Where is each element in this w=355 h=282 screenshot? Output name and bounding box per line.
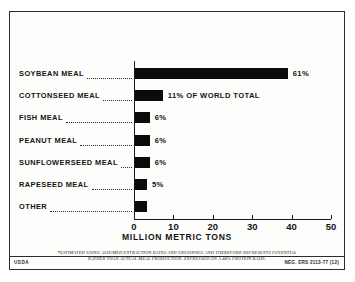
chart-figure: SOYBEAN MEAL61%COTTONSEED MEAL11% OF WOR… — [9, 11, 345, 270]
x-axis-tick — [331, 215, 332, 219]
bar-value-label: 5% — [152, 174, 164, 196]
bar-row: OTHER — [10, 196, 344, 218]
x-axis-tick-label: 30 — [240, 221, 264, 232]
bar-row: SOYBEAN MEAL61% — [10, 63, 344, 85]
bar-row: PEANUT MEAL6% — [10, 130, 344, 152]
x-axis-title: MILLION METRIC TONS — [10, 232, 344, 242]
bar — [134, 112, 150, 123]
credit-bar: USDA NEG. ERS 2113-77 (12) — [10, 256, 344, 269]
bar-value-label: 11% OF WORLD TOTAL — [168, 85, 260, 107]
x-axis-tick-label: 0 — [122, 221, 146, 232]
x-axis-tick — [252, 215, 253, 219]
bar-category-label: RAPESEED MEAL — [19, 174, 89, 196]
bar-value-label: 6% — [155, 152, 167, 174]
bar-row: FISH MEAL6% — [10, 107, 344, 129]
bar-category-label: SOYBEAN MEAL — [19, 63, 84, 85]
dot-leader — [80, 144, 132, 146]
axis-zero-line — [134, 61, 135, 219]
bar — [134, 90, 163, 101]
dot-leader — [50, 210, 132, 212]
negative-id-label: NEG. ERS 2113-77 (12) — [284, 260, 339, 265]
x-axis-tick — [213, 215, 214, 219]
x-axis-tick — [134, 215, 135, 219]
x-axis-tick — [173, 215, 174, 219]
bar-row: RAPESEED MEAL5% — [10, 174, 344, 196]
bar — [134, 201, 147, 212]
x-axis-tick-label: 40 — [280, 221, 304, 232]
footnote-text-1: ESTIMATED USING ASSUMED EXTRACTION RATES… — [60, 250, 297, 255]
dot-leader — [66, 121, 132, 123]
dot-leader — [87, 77, 132, 79]
bar-value-label: 61% — [293, 63, 309, 85]
bar-category-label: SUNFLOWERSEED MEAL — [19, 152, 118, 174]
dot-leader — [103, 99, 132, 101]
bar-category-label: COTTONSEED MEAL — [19, 85, 100, 107]
usda-label: USDA — [14, 260, 29, 265]
dot-leader — [121, 166, 132, 168]
x-axis-tick — [292, 215, 293, 219]
bar — [134, 157, 150, 168]
bar-category-label: PEANUT MEAL — [19, 130, 77, 152]
dot-leader — [92, 188, 132, 190]
x-axis-tick-label: 10 — [161, 221, 185, 232]
bar-value-label: 6% — [155, 107, 167, 129]
bar-row: SUNFLOWERSEED MEAL6% — [10, 152, 344, 174]
bar-chart-plot: SOYBEAN MEAL61%COTTONSEED MEAL11% OF WOR… — [10, 12, 344, 227]
x-axis-line — [134, 219, 331, 220]
bar-value-label: 6% — [155, 130, 167, 152]
x-axis-tick-label: 50 — [319, 221, 343, 232]
bar-category-label: FISH MEAL — [19, 107, 63, 129]
bar — [134, 68, 288, 79]
bar — [134, 179, 147, 190]
bar-row: COTTONSEED MEAL11% OF WORLD TOTAL — [10, 85, 344, 107]
bar-category-label: OTHER — [19, 196, 47, 218]
x-axis-tick-label: 20 — [201, 221, 225, 232]
bar — [134, 135, 150, 146]
